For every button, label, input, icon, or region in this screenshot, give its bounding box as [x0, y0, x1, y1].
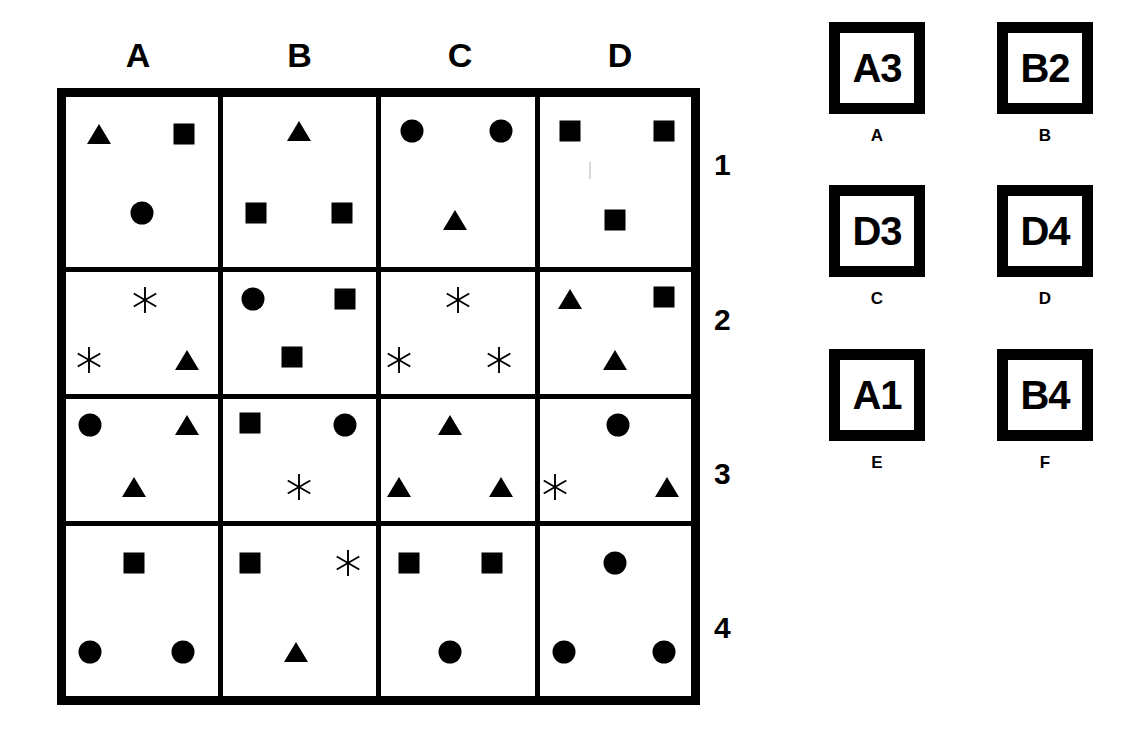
column-header-b: B: [270, 38, 330, 72]
grid-row: [62, 93, 696, 270]
answer-option-code: D4: [1020, 211, 1069, 251]
answer-option-code: B4: [1020, 375, 1069, 415]
asterisk-icon: [485, 346, 513, 374]
triangle-icon: [175, 350, 199, 370]
answer-option-letter: A: [812, 127, 942, 144]
shape-grid-table: [57, 88, 700, 705]
grid-cell-a3[interactable]: [62, 396, 221, 523]
circle-icon: [79, 640, 102, 663]
triangle-icon: [122, 477, 146, 497]
circle-icon: [334, 413, 357, 436]
answer-option-code: D3: [852, 211, 901, 251]
asterisk-icon: [444, 286, 472, 314]
square-icon: [559, 121, 580, 142]
grid-cell-c2[interactable]: [379, 270, 538, 397]
circle-icon: [489, 120, 512, 143]
triangle-icon: [655, 477, 679, 497]
circle-icon: [439, 640, 462, 663]
answer-option-letter: D: [980, 290, 1110, 307]
asterisk-icon: [285, 473, 313, 501]
circle-icon: [604, 552, 627, 575]
grid-cell-a2[interactable]: [62, 270, 221, 397]
answer-option-d[interactable]: D4D: [980, 185, 1110, 307]
answer-option-letter: F: [980, 454, 1110, 471]
column-header-d: D: [590, 38, 650, 72]
grid-row: [62, 396, 696, 523]
grid-row: [62, 270, 696, 397]
row-header-1: 1: [714, 150, 754, 180]
answer-option-f[interactable]: B4F: [980, 349, 1110, 471]
asterisk-icon: [385, 346, 413, 374]
triangle-icon: [558, 289, 582, 309]
answer-option-a[interactable]: A3A: [812, 22, 942, 144]
grid-cell-c1[interactable]: [379, 93, 538, 270]
square-icon: [332, 202, 353, 223]
answer-option-box[interactable]: A1: [829, 349, 925, 441]
triangle-icon: [87, 124, 111, 144]
square-icon: [124, 553, 145, 574]
triangle-icon: [387, 477, 411, 497]
triangle-icon: [287, 121, 311, 141]
answer-option-box[interactable]: B2: [997, 22, 1093, 114]
square-icon: [335, 289, 356, 310]
shape-grid: [57, 88, 700, 705]
column-header-a: A: [108, 38, 168, 72]
grid-cell-b3[interactable]: [220, 396, 379, 523]
grid-cell-c4[interactable]: [379, 523, 538, 700]
triangle-icon: [603, 350, 627, 370]
triangle-icon: [489, 477, 513, 497]
asterisk-icon: [75, 346, 103, 374]
answer-option-box[interactable]: A3: [829, 22, 925, 114]
circle-icon: [171, 640, 194, 663]
answer-option-code: A1: [852, 375, 901, 415]
answer-options-panel: A3AB2BD3CD4DA1EB4F: [812, 22, 1112, 492]
answer-option-code: A3: [852, 48, 901, 88]
row-header-2: 2: [714, 305, 754, 335]
column-header-c: C: [430, 38, 490, 72]
answer-option-code: B2: [1020, 48, 1069, 88]
grid-cell-d4[interactable]: [537, 523, 696, 700]
square-icon: [246, 202, 267, 223]
triangle-icon: [443, 210, 467, 230]
row-header-4: 4: [714, 613, 754, 643]
circle-icon: [607, 413, 630, 436]
row-header-3: 3: [714, 459, 754, 489]
circle-icon: [242, 288, 265, 311]
grid-cell-b4[interactable]: [220, 523, 379, 700]
square-icon: [174, 124, 195, 145]
asterisk-icon: [541, 473, 569, 501]
answer-option-box[interactable]: D4: [997, 185, 1093, 277]
grid-cell-a4[interactable]: [62, 523, 221, 700]
answer-option-box[interactable]: D3: [829, 185, 925, 277]
triangle-icon: [438, 415, 462, 435]
answer-option-letter: E: [812, 454, 942, 471]
grid-cell-d3[interactable]: [537, 396, 696, 523]
grid-cell-d2[interactable]: [537, 270, 696, 397]
asterisk-icon: [334, 549, 362, 577]
square-icon: [398, 553, 419, 574]
circle-icon: [79, 413, 102, 436]
square-icon: [240, 413, 261, 434]
square-icon: [653, 286, 674, 307]
grid-cell-d1[interactable]: [537, 93, 696, 270]
answer-option-b[interactable]: B2B: [980, 22, 1110, 144]
square-icon: [653, 121, 674, 142]
answer-option-box[interactable]: B4: [997, 349, 1093, 441]
circle-icon: [552, 640, 575, 663]
triangle-icon: [175, 415, 199, 435]
grid-row: [62, 523, 696, 700]
square-icon: [281, 347, 302, 368]
answer-option-letter: B: [980, 127, 1110, 144]
square-icon: [240, 553, 261, 574]
grid-cell-b1[interactable]: [220, 93, 379, 270]
square-icon: [605, 209, 626, 230]
asterisk-icon: [131, 286, 159, 314]
triangle-icon: [284, 642, 308, 662]
grid-cell-c3[interactable]: [379, 396, 538, 523]
square-icon: [481, 553, 502, 574]
circle-icon: [130, 201, 153, 224]
answer-option-c[interactable]: D3C: [812, 185, 942, 307]
answer-option-e[interactable]: A1E: [812, 349, 942, 471]
grid-cell-a1[interactable]: [62, 93, 221, 270]
grid-cell-b2[interactable]: [220, 270, 379, 397]
